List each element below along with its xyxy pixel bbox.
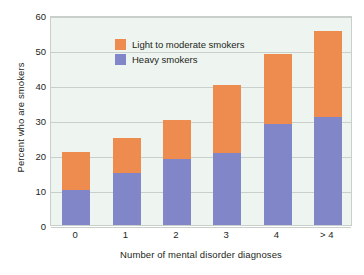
y-tick-label: 50 bbox=[24, 46, 46, 57]
bar-segment-heavy-smokers bbox=[213, 153, 241, 225]
x-axis-title: Number of mental disorder diagnoses bbox=[50, 249, 352, 260]
y-tick-label: 20 bbox=[24, 151, 46, 162]
legend-label: Heavy smokers bbox=[132, 54, 197, 65]
bar-segment-light-moderate-smokers bbox=[213, 85, 241, 153]
chart-figure: Percent who are smokers 0102030405060 Li… bbox=[0, 0, 364, 275]
y-axis-tick-labels: 0102030405060 bbox=[22, 0, 46, 275]
y-tick-label: 40 bbox=[24, 81, 46, 92]
x-tick-label: 3 bbox=[224, 229, 229, 240]
bar-group bbox=[62, 15, 90, 225]
bar-group bbox=[264, 15, 292, 225]
x-tick-label: 4 bbox=[274, 229, 279, 240]
chart-legend: Light to moderate smokersHeavy smokers bbox=[115, 39, 244, 69]
bar-segment-heavy-smokers bbox=[113, 173, 141, 226]
y-tick-label: 0 bbox=[24, 221, 46, 232]
x-tick-label: 1 bbox=[123, 229, 128, 240]
x-tick-label: 0 bbox=[73, 229, 78, 240]
bar-segment-light-moderate-smokers bbox=[62, 152, 90, 191]
bar-segment-heavy-smokers bbox=[163, 159, 191, 226]
bar-segment-heavy-smokers bbox=[314, 117, 342, 226]
y-tick-label: 10 bbox=[24, 186, 46, 197]
bar-group bbox=[314, 15, 342, 225]
bar-segment-light-moderate-smokers bbox=[113, 138, 141, 173]
x-tick-label: > 4 bbox=[320, 229, 333, 240]
legend-label: Light to moderate smokers bbox=[132, 39, 244, 50]
legend-item: Light to moderate smokers bbox=[115, 39, 244, 50]
gridline bbox=[51, 227, 351, 228]
bar-segment-heavy-smokers bbox=[62, 190, 90, 225]
legend-swatch-icon bbox=[115, 39, 126, 50]
y-tick-label: 60 bbox=[24, 11, 46, 22]
legend-swatch-icon bbox=[115, 54, 126, 65]
bar-segment-light-moderate-smokers bbox=[264, 54, 292, 124]
bar-segment-heavy-smokers bbox=[264, 124, 292, 226]
y-tick-label: 30 bbox=[24, 116, 46, 127]
bar-segment-light-moderate-smokers bbox=[314, 31, 342, 117]
x-tick-label: 2 bbox=[173, 229, 178, 240]
x-axis-tick-labels: 01234> 4 bbox=[50, 229, 352, 245]
plot-area: Light to moderate smokersHeavy smokers bbox=[50, 16, 352, 226]
bar-segment-light-moderate-smokers bbox=[163, 120, 191, 159]
legend-item: Heavy smokers bbox=[115, 54, 244, 65]
